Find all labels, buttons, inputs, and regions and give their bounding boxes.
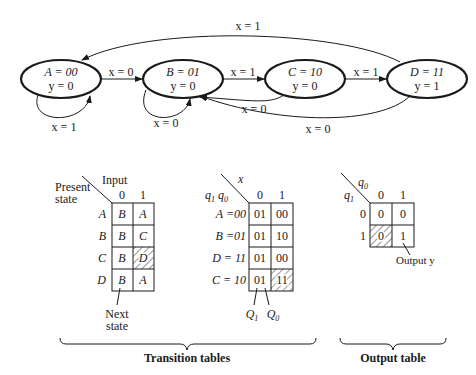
transition-table-symbolic: Input Present state 0 1 A B C D B A B C … [55,173,154,333]
svg-text:0: 0 [400,207,406,221]
svg-text:A =00: A =00 [215,207,246,221]
input-header: Input [102,173,128,187]
output-table-brace: Output table [340,338,446,365]
transition-table-encoded: x q1 q0 0 1 A =00 B =01 D = 11 C = 10 01… [205,172,293,323]
state-B: B = 01 y = 0 [143,60,223,98]
q0-header: q0 [358,175,368,191]
state-C: C = 10 y = 0 [265,60,345,98]
svg-text:01: 01 [254,207,266,221]
transition-C-B: x = 0 [200,95,284,116]
transition-B-C: x = 1 [223,65,264,79]
svg-text:1: 1 [400,188,406,202]
svg-text:D: D [96,273,106,287]
svg-text:0: 0 [378,229,384,243]
Q0-label: Q0 [267,307,280,323]
state-B-output: y = 0 [171,79,196,93]
svg-text:00: 00 [276,251,288,265]
svg-text:B: B [99,229,107,243]
svg-text:A: A [98,207,107,221]
Q1-label: Q1 [246,307,259,323]
output-y-note: Output y [396,254,435,266]
transition-tables-caption: Transition tables [144,351,230,365]
transition-D-A: x = 1 [82,19,400,62]
x-header: x [237,172,244,186]
svg-text:0: 0 [378,188,384,202]
svg-text:C: C [98,251,107,265]
svg-text:D = 11: D = 11 [211,251,246,265]
svg-text:A: A [138,273,147,287]
transition-tables-brace: Transition tables [60,338,316,365]
svg-text:state: state [55,192,77,206]
transition-A-B: x = 0 [101,65,142,79]
svg-text:01: 01 [254,229,266,243]
svg-text:C = 10: C = 10 [212,273,246,287]
svg-text:01: 01 [254,273,266,287]
svg-text:B: B [118,273,126,287]
state-D: D = 11 y = 1 [387,60,467,98]
output-table: q0 q1 0 1 0 1 0 0 0 1 Output y [341,173,435,266]
svg-text:11: 11 [276,273,288,287]
state-A-output: y = 0 [49,79,74,93]
state-C-output: y = 0 [293,79,318,93]
svg-text:x = 1: x = 1 [236,19,261,33]
state-D-output: y = 1 [415,79,440,93]
state-D-code: D = 11 [409,65,444,79]
svg-text:B: B [118,251,126,265]
svg-text:x = 0: x = 0 [306,122,331,136]
svg-text:1: 1 [279,188,285,202]
svg-text:01: 01 [254,251,266,265]
svg-text:1: 1 [400,229,406,243]
svg-text:x = 1: x = 1 [52,120,77,134]
transition-A-self: x = 1 [37,95,90,134]
q1-header: q1 [344,188,354,204]
svg-text:x = 1: x = 1 [354,65,379,79]
svg-text:0: 0 [119,188,125,202]
state-A: A = 00 y = 0 [21,60,101,98]
output-table-caption: Output table [360,351,426,365]
svg-text:B: B [118,207,126,221]
svg-text:C: C [139,229,148,243]
svg-text:10: 10 [276,229,288,243]
state-machine-figure: A = 00 y = 0 B = 01 y = 0 C = 10 y = 0 D… [0,0,476,375]
svg-text:B =01: B =01 [216,229,246,243]
svg-text:0: 0 [378,207,384,221]
svg-text:D: D [138,251,148,265]
svg-text:0: 0 [257,188,263,202]
state-C-code: C = 10 [288,65,322,79]
svg-text:B: B [118,229,126,243]
svg-text:x = 0: x = 0 [109,65,134,79]
state-A-code: A = 00 [43,65,77,79]
svg-text:0: 0 [360,207,366,221]
transition-D-B: x = 0 [200,96,410,136]
svg-text:state: state [106,319,128,333]
svg-text:x = 0: x = 0 [154,116,179,130]
svg-text:x = 1: x = 1 [231,65,256,79]
transition-C-D: x = 1 [345,65,386,79]
svg-text:1: 1 [140,188,146,202]
state-B-code: B = 01 [166,65,199,79]
svg-text:A: A [138,207,147,221]
q1q0-header: q1 q0 [205,188,228,204]
svg-text:00: 00 [276,207,288,221]
svg-text:1: 1 [360,229,366,243]
